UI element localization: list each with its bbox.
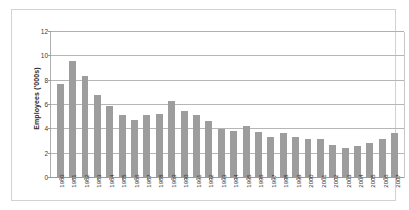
bar-slot <box>314 32 326 178</box>
x-axis-tick-label: 2001 <box>321 174 327 187</box>
y-axis-tick-mark <box>48 128 51 129</box>
bar[interactable] <box>255 132 262 178</box>
y-axis-tick-mark <box>48 55 51 56</box>
bar[interactable] <box>379 139 386 178</box>
bar-slot <box>91 32 103 178</box>
x-label-slot: 1980 <box>53 180 65 210</box>
x-label-slot: 1991 <box>190 180 202 210</box>
bar[interactable] <box>329 145 336 178</box>
bar[interactable] <box>292 137 299 178</box>
bar-slot <box>364 32 376 178</box>
x-label-slot: 1998 <box>277 180 289 210</box>
bar[interactable] <box>366 143 373 178</box>
bar-slot <box>351 32 363 178</box>
bar-slot <box>376 32 388 178</box>
bar[interactable] <box>354 146 361 178</box>
bar-series <box>52 32 403 178</box>
x-axis-tick-label: 1988 <box>158 174 164 187</box>
bar[interactable] <box>181 111 188 178</box>
y-axis-tick-label: 12 <box>41 28 48 35</box>
bar-slot <box>178 32 190 178</box>
x-label-slot: 1987 <box>140 180 152 210</box>
x-axis-tick-label: 1992 <box>208 174 214 187</box>
bar[interactable] <box>156 114 163 178</box>
x-label-slot: 1993 <box>215 180 227 210</box>
bar[interactable] <box>391 133 398 178</box>
bar[interactable] <box>305 139 312 178</box>
bar-slot <box>240 32 252 178</box>
bar[interactable] <box>143 115 150 178</box>
bar[interactable] <box>230 131 237 178</box>
bar-slot <box>116 32 128 178</box>
bar-slot <box>203 32 215 178</box>
x-label-slot: 1982 <box>78 180 90 210</box>
x-label-slot: 1994 <box>228 180 240 210</box>
y-axis-tick-label: 10 <box>41 52 48 59</box>
x-label-slot: 1995 <box>240 180 252 210</box>
y-axis-tick-mark <box>48 31 51 32</box>
x-label-slot: 1992 <box>203 180 215 210</box>
bar-slot <box>166 32 178 178</box>
bar-slot <box>289 32 301 178</box>
bar[interactable] <box>57 84 64 178</box>
x-label-slot: 1990 <box>178 180 190 210</box>
x-label-slot: 2003 <box>340 180 352 210</box>
bar-slot <box>141 32 153 178</box>
bar[interactable] <box>82 76 89 178</box>
x-axis-tick-label: 1998 <box>283 174 289 187</box>
bar-slot <box>54 32 66 178</box>
y-axis-tick-mark <box>48 104 51 105</box>
x-label-slot: 2002 <box>327 180 339 210</box>
bar-slot <box>339 32 351 178</box>
bar-slot <box>389 32 401 178</box>
y-axis-tick-mark <box>48 153 51 154</box>
x-axis-tick-label: 1987 <box>146 174 152 187</box>
x-axis-tick-label: 1993 <box>221 174 227 187</box>
bar[interactable] <box>193 115 200 178</box>
bar[interactable] <box>168 101 175 178</box>
bar[interactable] <box>106 106 113 178</box>
y-axis-tick-mark <box>48 80 51 81</box>
x-axis-tick-label: 1995 <box>246 174 252 187</box>
bar-slot <box>190 32 202 178</box>
x-label-slot: 2006 <box>377 180 389 210</box>
x-label-slot: 1996 <box>253 180 265 210</box>
x-axis-tick-label: 1983 <box>96 174 102 187</box>
bar[interactable] <box>205 121 212 178</box>
bar[interactable] <box>94 95 101 178</box>
x-label-slot: 1985 <box>115 180 127 210</box>
bar-slot <box>277 32 289 178</box>
bar[interactable] <box>218 129 225 178</box>
x-axis-tick-label: 2006 <box>383 174 389 187</box>
y-axis-tick-mark <box>48 177 51 178</box>
x-label-slot: 1986 <box>128 180 140 210</box>
x-axis-tick-label: 1997 <box>271 174 277 187</box>
bar[interactable] <box>69 61 76 178</box>
x-label-slot: 1983 <box>90 180 102 210</box>
chart-figure: Employees ('000s) 024681012 198019811982… <box>0 0 409 210</box>
x-axis-tick-label: 1981 <box>71 174 77 187</box>
x-axis-tick-label: 1980 <box>59 174 65 187</box>
bar-slot <box>227 32 239 178</box>
bar[interactable] <box>280 133 287 178</box>
x-label-slot: 2004 <box>352 180 364 210</box>
bar[interactable] <box>267 137 274 178</box>
y-axis-title: Employees ('000s) <box>33 54 40 144</box>
bar[interactable] <box>243 126 250 178</box>
x-axis-tick-label: 2002 <box>333 174 339 187</box>
x-label-slot: 1984 <box>103 180 115 210</box>
bar[interactable] <box>119 115 126 178</box>
x-label-slot: 1999 <box>290 180 302 210</box>
bar-slot <box>302 32 314 178</box>
bar[interactable] <box>317 139 324 178</box>
bar-slot <box>265 32 277 178</box>
x-axis-tick-label: 1996 <box>258 174 264 187</box>
x-axis-tick-label: 1985 <box>121 174 127 187</box>
x-axis-tick-label: 1999 <box>296 174 302 187</box>
x-axis-tick-label: 1984 <box>109 174 115 187</box>
bar-slot <box>215 32 227 178</box>
x-label-slot: 2005 <box>365 180 377 210</box>
bar[interactable] <box>131 120 138 178</box>
x-axis-tick-label: 1991 <box>196 174 202 187</box>
x-axis-tick-label: 1982 <box>84 174 90 187</box>
